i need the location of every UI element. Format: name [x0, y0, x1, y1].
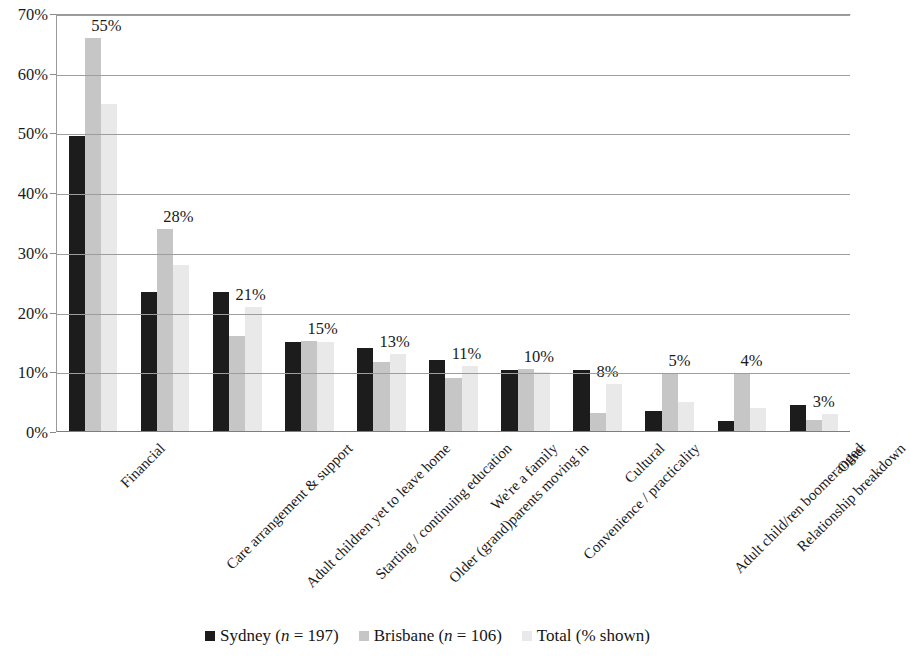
bar [429, 360, 445, 432]
bar-group: 11% [417, 15, 489, 432]
data-label: 8% [596, 362, 618, 382]
data-label: 4% [741, 351, 763, 371]
legend-swatch [522, 631, 532, 641]
legend-label-suffix: = 106) [453, 626, 502, 645]
legend-label-prefix: Total (% shown) [537, 626, 650, 645]
bar-group: 3% [778, 15, 850, 432]
legend-label-italic: n [281, 626, 290, 645]
bar [69, 136, 85, 432]
bar [285, 342, 301, 432]
data-label: 3% [813, 392, 835, 412]
legend-label-prefix: Sydney ( [220, 626, 281, 645]
data-label: 10% [524, 347, 554, 367]
gridline [57, 15, 850, 16]
bar-group: 55% [57, 15, 129, 432]
bar-group: 15% [273, 15, 345, 432]
bar-group: 4% [706, 15, 778, 432]
plot-area: 55%28%21%15%13%11%10%8%5%4%3% [56, 14, 851, 432]
bar [678, 402, 694, 432]
bar [750, 408, 766, 432]
x-axis-category-labels: FinancialCare arrangement & supportAdult… [56, 434, 851, 614]
gridline [57, 134, 850, 135]
x-axis-tick-label: Older (grand)parents moving in [446, 440, 593, 587]
legend-label-prefix: Brisbane ( [374, 626, 444, 645]
gridline [57, 75, 850, 76]
bar [590, 413, 606, 432]
legend-item: Sydney (n = 197) [205, 626, 339, 646]
y-axis-tick-mark [50, 432, 56, 433]
legend-label: Sydney (n = 197) [220, 626, 339, 646]
bar-groups: 55%28%21%15%13%11%10%8%5%4%3% [57, 15, 850, 432]
chart-legend: Sydney (n = 197)Brisbane (n = 106)Total … [0, 626, 855, 646]
bar [734, 373, 750, 432]
bar [445, 378, 461, 432]
y-axis-tick-label: 50% [0, 124, 48, 144]
bar-group: 8% [562, 15, 634, 432]
data-label: 28% [163, 207, 193, 227]
bar [173, 265, 189, 432]
y-axis-tick-label: 30% [0, 244, 48, 264]
bar [301, 341, 317, 432]
bar [357, 348, 373, 432]
legend-swatch [205, 631, 215, 641]
data-label: 21% [235, 285, 265, 305]
bar-group: 21% [201, 15, 273, 432]
y-axis-tick-label: 10% [0, 363, 48, 383]
legend-label-suffix: = 197) [290, 626, 339, 645]
bar [662, 373, 678, 432]
data-label: 11% [452, 344, 482, 364]
bar-group: 10% [490, 15, 562, 432]
legend-label: Brisbane (n = 106) [374, 626, 502, 646]
bar [245, 307, 261, 432]
x-axis-tick-label: Financial [117, 440, 168, 491]
legend-swatch [359, 631, 369, 641]
data-label: 15% [308, 319, 338, 339]
y-axis-tick-label: 0% [0, 423, 48, 443]
bar [229, 336, 245, 432]
bar [790, 405, 806, 432]
bar [462, 366, 478, 432]
bar [534, 372, 550, 432]
gridline [57, 254, 850, 255]
gridline [57, 373, 850, 374]
gridline [57, 194, 850, 195]
bar-group: 5% [634, 15, 706, 432]
y-axis-tick-label: 40% [0, 184, 48, 204]
bar [822, 414, 838, 432]
bar [390, 354, 406, 432]
axis-baseline [57, 431, 850, 432]
bar [573, 370, 589, 432]
bar-group: 28% [129, 15, 201, 432]
bar [101, 104, 117, 432]
data-label: 5% [668, 351, 690, 371]
bar [317, 342, 333, 432]
y-axis-tick-label: 70% [0, 5, 48, 25]
bar [501, 370, 517, 432]
bar [157, 229, 173, 432]
data-label: 55% [91, 16, 121, 36]
bar [645, 411, 661, 432]
gridline [57, 314, 850, 315]
legend-label-italic: n [444, 626, 453, 645]
bar-group: 13% [345, 15, 417, 432]
legend-label: Total (% shown) [537, 626, 650, 646]
legend-item: Brisbane (n = 106) [359, 626, 502, 646]
legend-item: Total (% shown) [522, 626, 650, 646]
bar [606, 384, 622, 432]
y-axis-tick-label: 60% [0, 65, 48, 85]
y-axis-tick-label: 20% [0, 304, 48, 324]
bar [518, 369, 534, 432]
data-label: 13% [380, 332, 410, 352]
